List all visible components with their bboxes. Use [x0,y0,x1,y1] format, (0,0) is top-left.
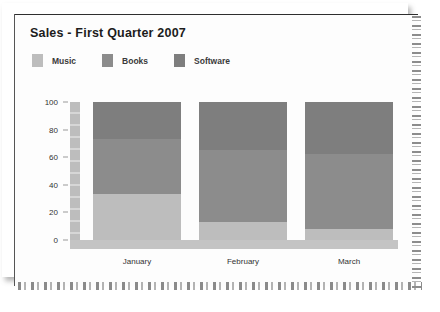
legend-item-label: Music [52,56,76,66]
x-axis-baseline [70,240,398,249]
y-axis-tick-label: 0 [54,236,58,245]
chart-title: Sales - First Quarter 2007 [30,26,186,40]
y-axis-band [70,102,80,247]
y-axis-tick-label: 60 [49,153,58,162]
y-axis-tick-mark [63,184,68,185]
legend-swatch-icon [174,54,185,67]
y-axis-tick-mark [63,212,68,213]
legend-swatch-icon [102,54,113,67]
bar-column-march[interactable] [305,102,393,240]
legend-swatch-icon [32,54,43,67]
y-axis-tick-mark [63,129,68,130]
x-axis-tick-label: March [305,257,393,266]
bar-segment-software[interactable] [93,102,181,139]
y-axis-tick-mark [63,157,68,158]
page-torn-right-edge [412,16,421,288]
bars-container [84,102,402,240]
y-axis-tick-label: 100 [45,98,58,107]
bar-segment-software[interactable] [199,102,287,150]
y-axis-tick-mark [63,240,68,241]
legend-item-label: Books [122,56,148,66]
scanned-page: Sales - First Quarter 2007 MusicBooksSof… [14,14,418,286]
bar-segment-music[interactable] [305,229,393,240]
bar-segment-books[interactable] [93,139,181,194]
page-torn-bottom-edge [18,282,422,290]
y-axis: 100806040200 [32,102,62,240]
legend-item-music: Music [32,54,76,67]
bar-segment-books[interactable] [199,150,287,222]
x-axis-tick-label: January [93,257,181,266]
y-axis-tick-label: 80 [49,125,58,134]
y-axis-tick-label: 40 [49,180,58,189]
bar-segment-music[interactable] [93,194,181,240]
legend-item-software: Software [174,54,230,67]
x-axis: JanuaryFebruaryMarch [84,257,402,266]
y-axis-tick-mark [63,102,68,103]
bar-segment-music[interactable] [199,222,287,240]
bar-column-january[interactable] [93,102,181,240]
legend-item-label: Software [194,56,230,66]
page-top-border [14,14,418,15]
bar-segment-books[interactable] [305,154,393,229]
y-axis-tick-label: 20 [49,208,58,217]
chart-legend: MusicBooksSoftware [32,54,230,67]
page-left-border [14,14,15,286]
x-axis-tick-label: February [199,257,287,266]
bar-segment-software[interactable] [305,102,393,154]
bar-column-february[interactable] [199,102,287,240]
plot-area: 100806040200 JanuaryFebruaryMarch [32,102,402,277]
legend-item-books: Books [102,54,148,67]
